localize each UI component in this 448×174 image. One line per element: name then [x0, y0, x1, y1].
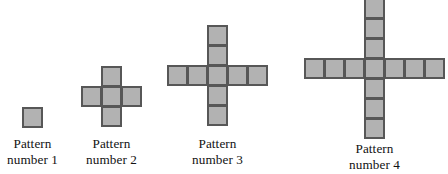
pattern-square — [364, 98, 385, 119]
pattern-square — [364, 58, 385, 79]
pattern-square — [304, 58, 325, 79]
pattern-square — [424, 58, 445, 79]
pattern-sequence-figure: Patternnumber 1Patternnumber 2Patternnum… — [0, 0, 448, 174]
pattern-square — [364, 0, 385, 19]
pattern-square — [404, 58, 425, 79]
pattern-square — [364, 18, 385, 39]
pattern-square — [384, 58, 405, 79]
pattern-square — [364, 38, 385, 59]
pattern-label-line-1: Pattern — [342, 141, 407, 157]
pattern-label-4: Patternnumber 4 — [342, 141, 407, 172]
pattern-square — [324, 58, 345, 79]
pattern-square — [344, 58, 365, 79]
pattern-label-line-2: number 4 — [342, 157, 407, 173]
pattern-square — [364, 118, 385, 139]
pattern-square — [364, 78, 385, 99]
pattern-group-4: Patternnumber 4 — [0, 0, 448, 174]
